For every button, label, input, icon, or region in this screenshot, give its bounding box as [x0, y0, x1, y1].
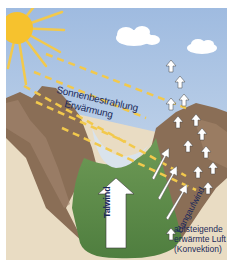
legend-line-3: (Konvektion): [174, 244, 226, 254]
legend-line-1: aufsteigende: [174, 224, 226, 234]
valley-wind-illustration: [6, 8, 227, 260]
diagram-frame: Sonnenbestrahlung Erwärmung Talwind Hang…: [6, 8, 227, 260]
label-talwind: Talwind: [102, 187, 112, 218]
legend-line-2: erwärmte Luft: [174, 234, 226, 244]
legend: aufsteigende erwärmte Luft (Konvektion): [174, 224, 226, 254]
